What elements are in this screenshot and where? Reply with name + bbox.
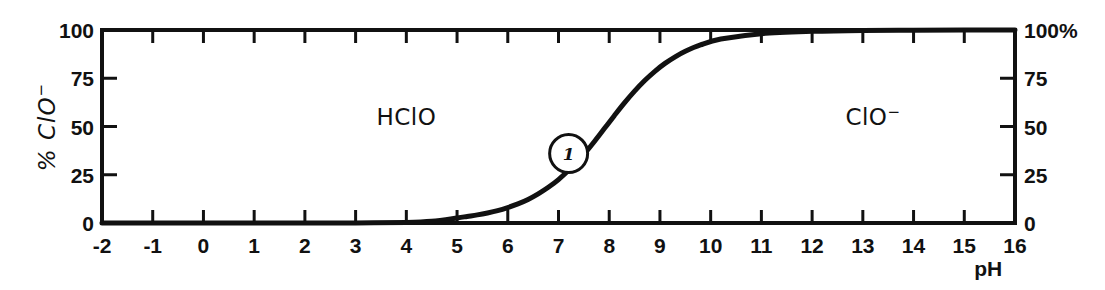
y-axis-ticks-right bbox=[1000, 78, 1015, 175]
y-tick-label-left: 0 bbox=[82, 213, 94, 234]
x-tick-label: 15 bbox=[953, 235, 976, 256]
x-tick-label: 6 bbox=[502, 235, 514, 256]
curve-marker-label: 1 bbox=[563, 144, 575, 164]
y-tick-label-left: 25 bbox=[71, 164, 94, 185]
region-label-superscript: − bbox=[887, 103, 900, 121]
y-tick-label-left: 75 bbox=[71, 68, 94, 89]
x-tick-label: 13 bbox=[851, 235, 874, 256]
x-tick-label: 9 bbox=[654, 235, 666, 256]
region-label-clo: ClO− bbox=[845, 105, 900, 130]
y-axis-title: % ClO− bbox=[34, 82, 59, 170]
x-tick-label: 11 bbox=[750, 235, 772, 256]
x-tick-label: 5 bbox=[451, 235, 463, 256]
y-tick-label-right: 75 bbox=[1024, 68, 1047, 89]
y-tick-label-right: 0 bbox=[1024, 213, 1036, 234]
x-tick-label: 4 bbox=[400, 235, 412, 256]
x-tick-label: 12 bbox=[800, 235, 823, 256]
y-tick-label-right: 25 bbox=[1024, 164, 1047, 185]
x-tick-label: 3 bbox=[350, 235, 362, 256]
y-tick-label-left: 100 bbox=[59, 20, 94, 41]
x-tick-label: 1 bbox=[248, 235, 260, 256]
x-axis-title: pH bbox=[974, 258, 1002, 279]
x-tick-label: -1 bbox=[143, 235, 162, 256]
y-tick-label-right: 50 bbox=[1024, 116, 1047, 137]
y-tick-label-right: 100% bbox=[1024, 20, 1078, 41]
region-label-text: ClO bbox=[845, 104, 887, 130]
y-tick-label-left: 50 bbox=[71, 116, 94, 137]
x-tick-label: 10 bbox=[699, 235, 722, 256]
region-label-hclo: HClO bbox=[376, 105, 436, 128]
y-axis-title-superscript: − bbox=[32, 82, 50, 96]
x-tick-label: 14 bbox=[902, 235, 925, 256]
x-tick-label: 16 bbox=[1003, 235, 1026, 256]
x-tick-label: 2 bbox=[299, 235, 311, 256]
x-tick-label: 7 bbox=[553, 235, 565, 256]
x-tick-label: -2 bbox=[93, 235, 112, 256]
x-tick-label: 8 bbox=[603, 235, 615, 256]
x-tick-label: 0 bbox=[198, 235, 210, 256]
chart-figure: -2-1012345678910111213141516 0255075100 … bbox=[0, 0, 1105, 290]
y-axis-title-text: % ClO bbox=[34, 96, 60, 171]
region-label-text: HClO bbox=[376, 103, 436, 129]
y-axis-ticks-left bbox=[102, 78, 117, 175]
